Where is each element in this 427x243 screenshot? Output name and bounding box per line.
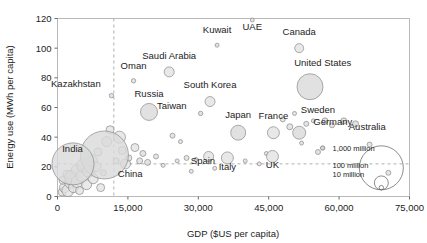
data-point-label: Canada — [283, 26, 317, 37]
data-point-france — [267, 127, 279, 139]
x-tick-label: 30,000 — [184, 202, 213, 213]
y-tick-label: 80 — [41, 72, 52, 83]
data-point-label: Italy — [219, 161, 237, 172]
data-point — [170, 133, 175, 138]
y-tick-label: 100 — [36, 43, 52, 54]
y-tick-label: 60 — [41, 102, 52, 113]
data-point-label: Oman — [121, 60, 147, 71]
y-tick-label: 40 — [41, 132, 52, 143]
data-point — [145, 159, 151, 165]
data-point — [213, 166, 217, 170]
data-point-germany — [293, 126, 306, 139]
legend-entry-label: 100 million — [333, 161, 369, 170]
y-tick-label: 120 — [36, 13, 52, 24]
data-point — [175, 159, 179, 163]
data-point — [97, 184, 105, 192]
size-legend: 1,000 million100 million10 million — [320, 144, 403, 190]
bubble-chart: 015,00030,00045,00060,00075,000 02040608… — [0, 0, 427, 243]
data-point-united-states — [297, 74, 323, 100]
data-point-label: China — [118, 168, 144, 179]
data-point-label: UK — [266, 159, 280, 170]
legend-entry-label: 10 million — [333, 170, 365, 179]
data-point-label: France — [259, 110, 289, 121]
data-point — [178, 140, 182, 144]
data-point-label: Germany — [313, 116, 352, 127]
y-tick-label: 20 — [41, 161, 52, 172]
x-tick-label: 15,000 — [113, 202, 142, 213]
data-point — [189, 169, 193, 173]
legend-marker-dot — [320, 146, 324, 150]
data-point-kazakhstan — [109, 93, 113, 97]
data-point — [140, 150, 146, 156]
x-tick-label: 0 — [55, 202, 60, 213]
data-point-label: Russia — [134, 88, 164, 99]
data-point-label: India — [62, 143, 83, 154]
data-point — [293, 111, 297, 115]
data-point-russia — [141, 103, 158, 120]
data-point-saudi-arabia — [164, 67, 174, 77]
data-point — [137, 158, 143, 164]
data-point-label: Sweden — [301, 104, 335, 115]
data-point-label: Taiwan — [157, 100, 187, 111]
x-tick-label: 60,000 — [325, 202, 354, 213]
data-point-oman — [131, 79, 135, 83]
data-point-south-korea — [205, 97, 215, 107]
data-point — [243, 159, 247, 163]
y-tick-label: 0 — [46, 191, 51, 202]
data-point — [161, 163, 165, 167]
x-tick-label: 45,000 — [254, 202, 283, 213]
data-point — [315, 150, 320, 155]
data-point-japan — [231, 125, 246, 140]
x-axis-title: GDP ($US per capita) — [187, 228, 279, 239]
data-point — [131, 144, 139, 152]
data-point-label: Kazakhstan — [51, 78, 101, 89]
chart-canvas: 015,00030,00045,00060,00075,000 02040608… — [0, 0, 427, 243]
data-point — [304, 121, 309, 126]
data-point — [300, 141, 304, 145]
legend-size-circle-2 — [379, 185, 383, 189]
data-point — [386, 170, 391, 175]
data-point — [154, 154, 159, 159]
data-point-label: Australia — [349, 121, 387, 132]
data-point-label: South Korea — [184, 79, 238, 90]
data-point-label: Saudi Arabia — [142, 50, 197, 61]
x-tick-label: 75,000 — [395, 202, 424, 213]
legend-entry-label: 1,000 million — [333, 144, 375, 153]
data-point — [287, 124, 293, 130]
data-point-label: UAE — [242, 21, 262, 32]
data-point-taiwan — [198, 111, 202, 115]
x-axis: 015,00030,00045,00060,00075,000 — [55, 197, 424, 213]
legend-size-circle-1 — [374, 176, 388, 190]
data-point-label: Japan — [225, 109, 251, 120]
data-point-label: Spain — [191, 155, 215, 166]
data-point-kuwait — [215, 43, 219, 47]
data-point — [184, 155, 189, 160]
data-point-label: United States — [294, 57, 351, 68]
data-point-canada — [295, 44, 304, 53]
data-point-label: Kuwait — [203, 24, 232, 35]
data-point — [257, 162, 261, 166]
y-axis-title: Energy use (MWh per capita) — [4, 45, 15, 169]
